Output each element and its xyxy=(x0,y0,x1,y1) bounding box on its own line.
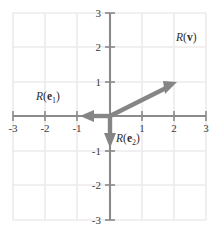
vector-label-r-e2-fn: R xyxy=(115,132,123,144)
vector-arrow-r-v xyxy=(110,81,177,116)
vector-shaft-r-v xyxy=(110,87,168,116)
vector-label-r-e1-fn: R xyxy=(35,90,43,102)
y-tick-label: 2 xyxy=(96,41,102,53)
coordinate-plane-plot: -3 -2 -1 1 2 3 3 2 1 -1 -2 -3 xyxy=(0,0,218,231)
vector-head-r-v xyxy=(163,81,177,94)
y-tick-label: -3 xyxy=(92,214,102,226)
vector-label-r-e2: R(e2) xyxy=(115,132,140,147)
vector-label-r-e1: R(e1) xyxy=(35,90,60,105)
y-tick-label: -1 xyxy=(92,145,101,157)
vector-arrow-r-e1 xyxy=(80,110,110,122)
vector-diagram-figure: -3 -2 -1 1 2 3 3 2 1 -1 -2 -3 xyxy=(0,0,218,231)
vector-head-r-e1 xyxy=(80,110,94,122)
vector-label-r-v: R(v) xyxy=(175,31,197,44)
vector-head-r-e2 xyxy=(104,133,116,148)
vector-arrow-r-e2 xyxy=(104,116,116,148)
x-tick-label: 3 xyxy=(203,122,209,134)
x-tick-label: -1 xyxy=(72,122,81,134)
vector-label-r-v-fn: R xyxy=(175,31,183,43)
y-tick-label: 1 xyxy=(96,76,102,88)
x-tick-label: -2 xyxy=(40,122,49,134)
x-tick-label: 1 xyxy=(139,122,145,134)
y-tick-label: 3 xyxy=(96,7,102,19)
y-tick-label: -2 xyxy=(92,179,101,191)
x-tick-label: -3 xyxy=(8,122,18,134)
x-tick-label: 2 xyxy=(171,122,177,134)
